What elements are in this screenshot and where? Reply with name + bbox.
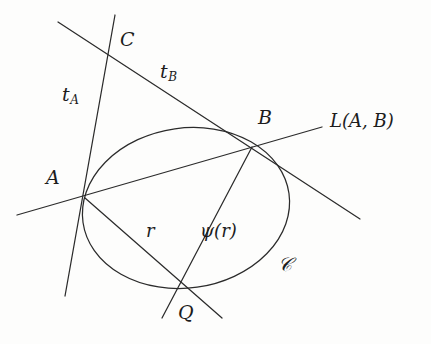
label-tangent-b-base: t	[160, 60, 168, 82]
tangent-line-a	[65, 15, 115, 296]
label-psi-of-r: ψ(r)	[200, 222, 237, 240]
label-point-q: Q	[178, 303, 194, 322]
label-tangent-b-subscript: B	[168, 70, 177, 84]
label-point-c: C	[120, 30, 135, 49]
label-point-b: B	[258, 108, 272, 127]
geometry-figure: A B C Q tA tB L(A, B) r ψ(r) 𝒞	[0, 0, 431, 344]
label-secant-line: L(A, B)	[330, 112, 394, 130]
label-tangent-b: tB	[160, 62, 177, 83]
chord-a-q	[85, 198, 222, 318]
label-tangent-a: tA	[62, 85, 79, 106]
label-radius: r	[146, 222, 155, 240]
label-point-a: A	[46, 168, 60, 187]
secant-line-ab	[17, 127, 322, 215]
label-tangent-a-base: t	[62, 83, 70, 105]
label-tangent-a-subscript: A	[70, 93, 79, 107]
label-curve-c: 𝒞	[278, 255, 292, 274]
figure-canvas	[0, 0, 431, 344]
